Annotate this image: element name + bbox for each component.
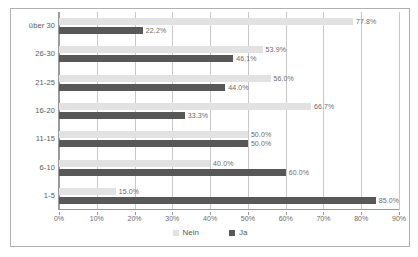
bar-value-label: 46.1% [236, 55, 256, 62]
legend-label: Ja [239, 228, 247, 237]
bar-ja [59, 169, 286, 176]
y-tick-label: 6-10 [40, 164, 55, 172]
x-tick-label: 60% [279, 215, 293, 223]
bar-ja [59, 140, 248, 147]
bar-nein [59, 18, 353, 25]
bar-value-label: 33.3% [188, 112, 208, 119]
bar-value-label: 15.0% [119, 188, 139, 195]
x-tick-label: 80% [354, 215, 368, 223]
bar-line: 33.3% [59, 112, 399, 119]
bar-line: 66.7% [59, 103, 399, 110]
bar-ja [59, 84, 225, 91]
bar-line: 60.0% [59, 169, 399, 176]
y-tick-label: über 30 [29, 22, 55, 30]
bar-nein [59, 103, 311, 110]
bar-ja [59, 27, 143, 34]
bar-nein [59, 160, 210, 167]
bar-nein [59, 46, 263, 53]
bar-line: 56.0% [59, 75, 399, 82]
y-tick-label: 1-5 [44, 192, 55, 200]
x-tick-label: 20% [128, 215, 142, 223]
y-tick-label: 16-20 [35, 107, 55, 115]
bar-value-label: 77.8% [356, 18, 376, 25]
bar-ja [59, 55, 233, 62]
legend-item[interactable]: Nein [173, 228, 199, 237]
bar-nein [59, 131, 248, 138]
bar-line: 44.0% [59, 84, 399, 91]
bar-line: 77.8% [59, 18, 399, 25]
bar-ja [59, 112, 185, 119]
x-tick-label: 0% [54, 215, 64, 223]
bar-line: 85.0% [59, 197, 399, 204]
legend-swatch-icon [229, 230, 235, 236]
y-tick-label: 21-25 [35, 79, 55, 87]
bar-line: 22.2% [59, 27, 399, 34]
bar-value-label: 22.2% [146, 27, 166, 34]
bar-line: 46.1% [59, 55, 399, 62]
bar-value-label: 60.0% [289, 169, 309, 176]
bar-value-label: 50.0% [251, 131, 271, 138]
plot-area: 77.8%22.2%53.9%46.1%56.0%44.0%66.7%33.3%… [59, 12, 399, 210]
bar-ja [59, 197, 376, 204]
bar-group: 15.0%85.0% [59, 182, 399, 210]
y-axis-tick-labels: über 3026-3021-2516-2011-156-101-5 [11, 12, 59, 210]
legend-swatch-icon [173, 230, 179, 236]
bar-value-label: 85.0% [379, 197, 399, 204]
legend-item[interactable]: Ja [229, 228, 247, 237]
x-tick-label: 40% [203, 215, 217, 223]
x-axis-tick-labels: 0%10%20%30%40%50%60%70%80%90% [59, 212, 399, 226]
bar-group: 66.7%33.3% [59, 97, 399, 125]
x-tick-label: 30% [165, 215, 179, 223]
bar-line: 40.0% [59, 160, 399, 167]
bar-group: 53.9%46.1% [59, 40, 399, 68]
bar-group: 40.0%60.0% [59, 153, 399, 181]
bar-value-label: 44.0% [228, 84, 248, 91]
gridline [399, 12, 400, 210]
bar-line: 15.0% [59, 188, 399, 195]
x-tick-label: 10% [90, 215, 104, 223]
y-tick-label: 26-30 [35, 50, 55, 58]
legend-label: Nein [183, 228, 199, 237]
y-tick-label: 11-15 [36, 135, 55, 143]
x-tick-label: 90% [392, 215, 406, 223]
bar-group: 77.8%22.2% [59, 12, 399, 40]
chart-legend: NeinJa [11, 228, 409, 237]
x-tick-label: 70% [316, 215, 330, 223]
bar-group: 50.0%50.0% [59, 125, 399, 153]
bar-value-label: 53.9% [266, 46, 286, 53]
bar-value-label: 66.7% [314, 103, 334, 110]
bar-rows: 77.8%22.2%53.9%46.1%56.0%44.0%66.7%33.3%… [59, 12, 399, 210]
bar-line: 50.0% [59, 140, 399, 147]
bar-nein [59, 75, 271, 82]
bar-group: 56.0%44.0% [59, 69, 399, 97]
bar-value-label: 40.0% [213, 160, 233, 167]
chart-figure: über 3026-3021-2516-2011-156-101-5 77.8%… [10, 8, 410, 247]
bar-value-label: 50.0% [251, 140, 271, 147]
x-tick-label: 50% [241, 215, 255, 223]
bar-value-label: 56.0% [274, 75, 294, 82]
bar-line: 50.0% [59, 131, 399, 138]
bar-nein [59, 188, 116, 195]
bar-line: 53.9% [59, 46, 399, 53]
